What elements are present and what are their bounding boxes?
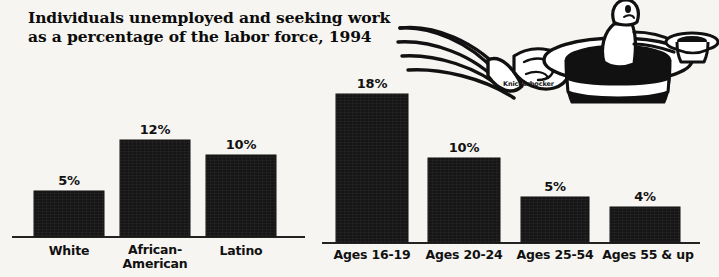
bar-group-ages-20-24: 10% — [428, 140, 500, 242]
plot-area-left: 5% White 12% African- American 10% Latin… — [8, 117, 314, 277]
bar-value-african-american: 12% — [140, 122, 171, 137]
chart-by-race-ethnicity: 5% White 12% African- American 10% Latin… — [8, 117, 314, 277]
bar-ages-55-up — [610, 207, 680, 242]
bar-label-ages-16-19: Ages 16-19 — [328, 248, 416, 262]
bar-white — [34, 191, 104, 236]
chart-by-age-group: 18% Ages 16-19 10% Ages 20-24 5% Ages 25… — [318, 77, 710, 277]
bar-group-ages-16-19: 18% — [336, 76, 408, 242]
bar-label-ages-20-24: Ages 20-24 — [420, 248, 508, 262]
bar-label-latino: Latino — [206, 244, 276, 258]
bar-ages-25-54 — [521, 197, 589, 242]
bar-group-african-american: 12% — [120, 122, 190, 236]
bar-african-american — [120, 140, 190, 236]
bar-value-ages-16-19: 18% — [357, 76, 388, 91]
bar-ages-20-24 — [428, 158, 500, 242]
bar-latino — [206, 155, 276, 236]
title-line-2: as a percentage of the labor force, 1994 — [28, 27, 418, 46]
bar-label-ages-25-54: Ages 25-54 — [510, 248, 600, 262]
bar-group-ages-55-up: 4% — [610, 189, 680, 242]
x-axis-line-right — [322, 242, 700, 244]
bar-group-ages-25-54: 5% — [521, 179, 589, 242]
chart-figure: Individuals unemployed and seeking work … — [0, 0, 719, 277]
bar-value-ages-20-24: 10% — [449, 140, 480, 155]
x-axis-line-left — [12, 236, 305, 238]
bar-label-african-american: African- American — [112, 243, 198, 270]
plot-area-right: 18% Ages 16-19 10% Ages 20-24 5% Ages 25… — [318, 77, 710, 277]
bar-group-latino: 10% — [206, 137, 276, 236]
bar-value-white: 5% — [58, 173, 80, 188]
bar-value-latino: 10% — [226, 137, 257, 152]
title-line-1: Individuals unemployed and seeking work — [28, 8, 418, 27]
bar-group-white: 5% — [34, 173, 104, 236]
bar-label-white: White — [34, 244, 104, 258]
bar-value-ages-55-up: 4% — [634, 189, 656, 204]
bar-ages-16-19 — [336, 94, 408, 242]
bar-value-ages-25-54: 5% — [544, 179, 566, 194]
bar-label-ages-55-up: Ages 55 & up — [600, 248, 696, 262]
page-title: Individuals unemployed and seeking work … — [28, 8, 418, 46]
